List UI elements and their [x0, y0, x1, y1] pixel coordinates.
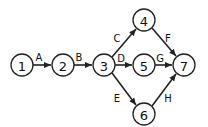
node-label: 4: [140, 14, 148, 29]
edge-label-b: B: [76, 52, 83, 63]
edge-label-a: A: [36, 52, 43, 63]
edge-label-f: F: [165, 33, 171, 44]
edge-label-g: G: [156, 53, 164, 64]
node-3: 3: [93, 54, 115, 76]
node-label: 7: [180, 59, 188, 74]
node-label: 5: [140, 59, 148, 74]
node-label: 1: [18, 59, 26, 74]
node-4: 4: [133, 9, 155, 31]
edge-label-d: D: [117, 53, 125, 64]
edge-label-c: C: [114, 33, 121, 44]
node-6: 6: [133, 103, 155, 125]
node-label: 3: [100, 59, 108, 74]
node-label: 6: [140, 108, 148, 123]
network-diagram: A B C D E F G H 1 2 3 4 5: [0, 0, 208, 127]
node-label: 2: [59, 59, 67, 74]
edge-label-h: H: [164, 93, 172, 104]
node-7: 7: [173, 54, 195, 76]
node-2: 2: [52, 54, 74, 76]
node-5: 5: [133, 54, 155, 76]
node-1: 1: [11, 54, 33, 76]
edge-label-e: E: [114, 93, 120, 104]
